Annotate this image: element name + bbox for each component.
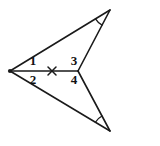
angle-label-4: 4 <box>71 72 78 87</box>
angle-label-1: 1 <box>30 53 37 68</box>
geometry-figure-svg: 1 2 3 4 <box>0 0 160 146</box>
angle-label-2: 2 <box>30 72 37 87</box>
bottom-right-angle-arc <box>95 116 102 122</box>
geometry-figure-canvas: 1 2 3 4 <box>0 0 160 146</box>
angle-label-3: 3 <box>71 53 78 68</box>
top-right-angle-arc <box>95 19 102 25</box>
left-vertex-point <box>8 69 12 73</box>
